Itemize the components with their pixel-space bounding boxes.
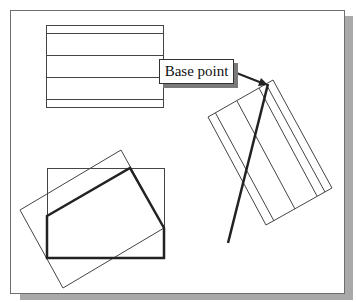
rotated-rect-left[interactable] xyxy=(20,150,164,288)
rotation-reference-line[interactable] xyxy=(228,84,268,243)
rotated-hatched-rect[interactable] xyxy=(208,80,332,225)
top-left-hatched-rect[interactable] xyxy=(47,26,164,108)
thick-polygon[interactable] xyxy=(47,168,164,258)
base-point-callout: Base point xyxy=(159,59,234,84)
drawing-canvas xyxy=(0,0,356,302)
callout-arrow xyxy=(234,72,268,86)
